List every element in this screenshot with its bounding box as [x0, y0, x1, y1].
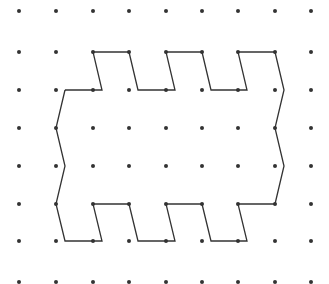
grid-dot: [54, 280, 58, 284]
grid-dot: [17, 280, 21, 284]
grid-dot: [17, 50, 21, 54]
grid-dot: [17, 164, 21, 168]
grid-dot: [164, 9, 168, 13]
grid-dot: [127, 239, 131, 243]
grid-dot: [127, 164, 131, 168]
grid-dot: [236, 126, 240, 130]
grid-dot: [127, 126, 131, 130]
grid-dot: [236, 9, 240, 13]
grid-dot: [17, 88, 21, 92]
grid-dot: [309, 164, 313, 168]
dot-grid-diagram: [0, 0, 329, 284]
grid-dot: [200, 9, 204, 13]
grid-dot: [54, 9, 58, 13]
grid-dot: [91, 9, 95, 13]
grid-dot: [91, 280, 95, 284]
grid-dot: [309, 202, 313, 206]
grid-dot: [200, 164, 204, 168]
grid-dot: [127, 9, 131, 13]
grid-dot: [54, 239, 58, 243]
grid-dot: [54, 88, 58, 92]
grid-dots: [17, 9, 313, 284]
grid-dot: [17, 202, 21, 206]
grid-dot: [273, 164, 277, 168]
grid-dot: [309, 280, 313, 284]
grid-dot: [309, 50, 313, 54]
grid-dot: [309, 126, 313, 130]
grid-dot: [200, 239, 204, 243]
dot-grid-figure: [0, 0, 329, 284]
grid-dot: [236, 280, 240, 284]
grid-dot: [273, 280, 277, 284]
grid-dot: [17, 239, 21, 243]
grid-dot: [309, 239, 313, 243]
grid-dot: [309, 9, 313, 13]
grid-dot: [91, 164, 95, 168]
grid-dot: [164, 280, 168, 284]
grid-dot: [273, 9, 277, 13]
grid-dot: [273, 239, 277, 243]
grid-dot: [164, 164, 168, 168]
grid-dot: [236, 164, 240, 168]
grid-dot: [200, 126, 204, 130]
grid-dot: [54, 164, 58, 168]
grid-dot: [127, 88, 131, 92]
grid-dot: [91, 126, 95, 130]
grid-dot: [17, 9, 21, 13]
grid-dot: [200, 280, 204, 284]
grid-dot: [54, 50, 58, 54]
grid-dot: [309, 88, 313, 92]
grid-dot: [273, 88, 277, 92]
grid-dot: [127, 280, 131, 284]
grid-dot: [200, 88, 204, 92]
grid-dot: [17, 126, 21, 130]
grid-dot: [164, 126, 168, 130]
polygon-outline: [56, 52, 284, 241]
